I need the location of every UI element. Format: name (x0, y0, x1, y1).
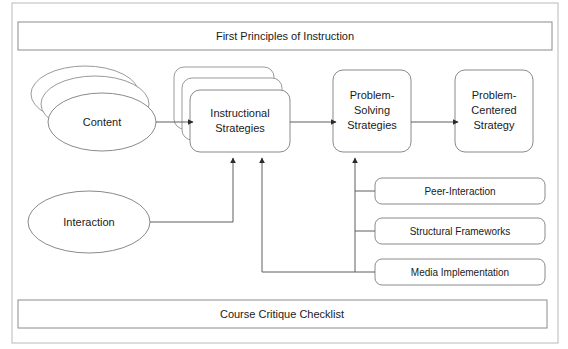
first-principles-bar: First Principles of Instruction (18, 22, 552, 50)
diagram-outer-frame (12, 3, 558, 343)
instructional-strategies-rect-front (190, 90, 290, 152)
peer-interaction-node: Peer-Interaction (375, 178, 545, 204)
problem-solving-strategies-label-line3: Strategies (347, 119, 397, 131)
problem-solving-strategies-label-line2: Solving (354, 104, 390, 116)
media-implementation-node: Media Implementation (375, 259, 545, 285)
interaction-node: Interaction (28, 191, 150, 253)
course-critique-checklist-label: Course Critique Checklist (220, 308, 344, 320)
instructional-strategies-label-line2: Strategies (215, 122, 265, 134)
problem-centered-strategy-label-line2: Centered (471, 104, 516, 116)
first-principles-label: First Principles of Instruction (216, 30, 354, 42)
instructional-strategies-label-line1: Instructional (210, 107, 269, 119)
problem-solving-strategies-label-line1: Problem- (350, 89, 395, 101)
structural-frameworks-node: Structural Frameworks (375, 218, 545, 244)
structural-frameworks-label: Structural Frameworks (410, 226, 511, 237)
problem-centered-strategy-label-line1: Problem- (472, 89, 517, 101)
connector-interaction-to-instructional-strategies (150, 158, 233, 222)
course-critique-checklist-bar: Course Critique Checklist (18, 300, 547, 328)
problem-centered-strategy-node: Problem- Centered Strategy (455, 70, 533, 152)
diagram-canvas: First Principles of Instruction Content … (0, 0, 568, 349)
peer-interaction-label: Peer-Interaction (424, 186, 495, 197)
content-label: Content (83, 116, 122, 128)
content-node: Content (31, 66, 156, 151)
media-implementation-label: Media Implementation (411, 267, 509, 278)
instructional-strategies-node: Instructional Strategies (174, 67, 290, 152)
interaction-label: Interaction (63, 216, 114, 228)
connector-support-bus-to-instructional-strategies (262, 158, 355, 272)
problem-solving-strategies-node: Problem- Solving Strategies (333, 70, 411, 152)
instructional-design-diagram: First Principles of Instruction Content … (0, 0, 568, 349)
problem-centered-strategy-label-line3: Strategy (474, 119, 515, 131)
